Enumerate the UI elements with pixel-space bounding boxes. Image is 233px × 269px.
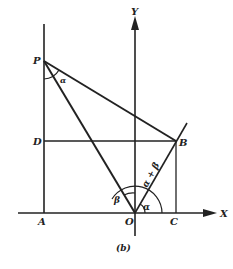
point-B-label: B bbox=[178, 137, 187, 148]
figure-caption: (b) bbox=[116, 243, 131, 253]
point-P-label: P bbox=[32, 55, 41, 66]
angle-arc-beta bbox=[124, 193, 135, 195]
y-axis-arrow-icon bbox=[131, 16, 139, 30]
y-axis-label: Y bbox=[131, 6, 139, 17]
angle-alpha-P-label: α bbox=[60, 75, 66, 85]
angle-beta-label: β bbox=[113, 195, 120, 205]
diagram-canvas: Y X P D A O B C α β α α + β (b) bbox=[0, 0, 233, 269]
angle-alpha-label: α bbox=[143, 202, 150, 212]
point-O-label: O bbox=[125, 216, 134, 227]
point-D-label: D bbox=[32, 136, 42, 147]
x-axis-arrow-icon bbox=[203, 209, 217, 217]
line-PB bbox=[44, 61, 176, 141]
point-A-label: A bbox=[37, 216, 46, 227]
x-axis-label: X bbox=[219, 208, 229, 219]
angle-alpha-plus-beta-label: α + β bbox=[140, 161, 161, 189]
geometry-figure: Y X P D A O B C α β α α + β (b) bbox=[0, 0, 233, 269]
point-C-label: C bbox=[170, 216, 178, 227]
